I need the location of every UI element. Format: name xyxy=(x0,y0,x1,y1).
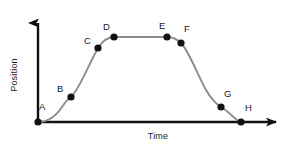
position-curve xyxy=(38,37,241,122)
point-label-h: H xyxy=(245,103,252,113)
y-axis-label: Position xyxy=(8,44,20,106)
data-point-a xyxy=(34,118,41,125)
data-point-b xyxy=(67,93,74,100)
data-point-g xyxy=(217,103,224,110)
data-point-f xyxy=(177,39,184,46)
data-point-h xyxy=(237,118,244,125)
point-label-c: C xyxy=(84,36,91,46)
point-label-f: F xyxy=(184,24,190,34)
data-point-e xyxy=(163,33,170,40)
x-axis-label: Time xyxy=(130,131,186,141)
point-label-d: D xyxy=(103,22,110,32)
point-label-e: E xyxy=(159,21,165,31)
data-point-d xyxy=(110,33,117,40)
data-point-c xyxy=(94,44,101,51)
point-label-a: A xyxy=(39,102,45,112)
position-time-chart: ABCDEFGH Position Time xyxy=(0,0,299,153)
point-label-g: G xyxy=(224,89,231,99)
data-point-markers xyxy=(34,33,244,125)
point-label-b: B xyxy=(57,84,63,94)
